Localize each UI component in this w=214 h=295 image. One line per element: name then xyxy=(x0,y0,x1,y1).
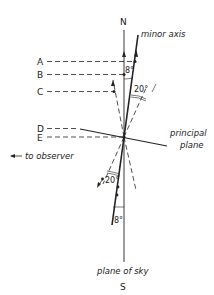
point-label-e: E xyxy=(37,133,43,143)
ns-arrow-icon xyxy=(122,51,126,57)
angle-label-bottom-20: 20° xyxy=(105,176,119,185)
minor-axis-label: minor axis xyxy=(141,29,186,39)
minor-axis-line xyxy=(112,35,138,225)
diagram-canvas: N minor axis principal plane A B C D E 8… xyxy=(0,0,214,295)
angle-label-top-8: 8° xyxy=(125,66,134,75)
point-c-arrow-icon xyxy=(111,80,115,86)
cone-line-upper-left xyxy=(113,80,124,137)
principal-plane-label-2: plane xyxy=(179,140,204,150)
angle-label-bottom-8: 8° xyxy=(114,216,123,225)
cone-line-lower-right xyxy=(124,137,136,190)
point-lower-left xyxy=(101,178,104,181)
point-label-b: B xyxy=(37,70,43,80)
angle-tick-top-20 xyxy=(152,84,156,92)
point-lower-1 xyxy=(117,186,120,189)
angle-label-top-20: 20° xyxy=(134,85,148,94)
north-label: N xyxy=(120,17,127,27)
point-label-a: A xyxy=(37,57,44,67)
point-a xyxy=(134,60,137,63)
to-observer-arrow-icon xyxy=(10,154,15,158)
center-point xyxy=(122,135,125,138)
plane-of-sky-label: plane of sky xyxy=(96,266,150,276)
point-label-c: C xyxy=(37,87,43,97)
south-label: S xyxy=(120,282,126,292)
principal-plane-label-1: principal xyxy=(169,128,207,138)
to-observer-label: to observer xyxy=(25,151,74,161)
point-lower-2 xyxy=(116,194,119,197)
point-c xyxy=(113,90,116,93)
